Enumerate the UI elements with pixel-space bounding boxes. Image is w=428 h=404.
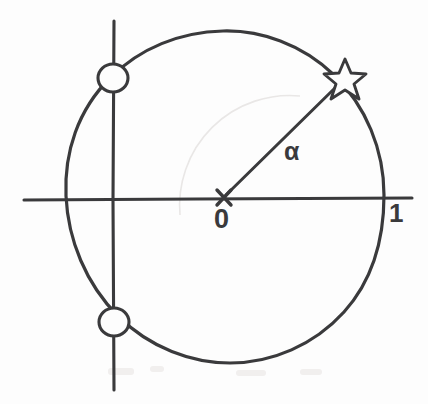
paper-speck [300, 369, 322, 375]
x-axis-line [24, 198, 412, 200]
unit-circle-figure: 0 1 α [0, 0, 428, 404]
paper-speck [108, 368, 134, 375]
origin-label: 0 [214, 206, 229, 233]
ring-marker-lower-icon [99, 308, 129, 336]
unit-radius-label: 1 [389, 200, 403, 226]
angle-label: α [284, 139, 299, 164]
paper-speck [236, 370, 266, 376]
ring-marker-upper-icon [98, 64, 128, 92]
figure-canvas [0, 0, 428, 404]
paper-speck [150, 366, 164, 372]
radius-line-to-star [226, 87, 336, 195]
